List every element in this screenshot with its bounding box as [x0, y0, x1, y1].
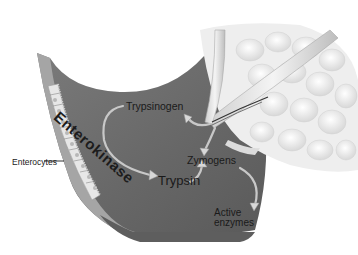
digestion-diagram [0, 0, 358, 255]
label-enterocytes: Enterocytes [12, 158, 57, 167]
label-trypsin: Trypsin [158, 174, 200, 187]
label-active-line2: enzymes [214, 218, 254, 228]
label-active-enzymes: Active enzymes [214, 208, 254, 228]
label-zymogens: Zymogens [187, 155, 236, 166]
label-trypsinogen: Trypsinogen [126, 101, 183, 112]
